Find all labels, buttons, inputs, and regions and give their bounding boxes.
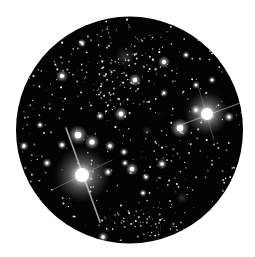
- star: [145, 176, 148, 179]
- faint-star: [101, 36, 102, 37]
- faint-star: [241, 112, 243, 114]
- faint-star: [158, 207, 159, 208]
- faint-star: [120, 105, 121, 106]
- faint-star: [107, 105, 109, 107]
- faint-star: [117, 213, 118, 214]
- faint-star: [63, 101, 64, 102]
- faint-star: [123, 63, 124, 64]
- faint-star: [32, 100, 33, 101]
- faint-star: [145, 67, 146, 68]
- faint-star: [163, 157, 165, 159]
- faint-star: [98, 94, 100, 96]
- star: [60, 143, 63, 146]
- faint-star: [146, 131, 148, 133]
- faint-star: [50, 83, 51, 84]
- faint-star: [72, 48, 73, 49]
- faint-star: [152, 48, 153, 49]
- faint-star: [106, 190, 107, 191]
- faint-star: [133, 223, 134, 224]
- faint-star: [135, 90, 136, 91]
- star: [45, 161, 48, 164]
- faint-star: [185, 179, 186, 180]
- faint-star: [149, 235, 151, 237]
- faint-star: [209, 59, 211, 61]
- star: [123, 151, 126, 154]
- faint-star: [186, 194, 187, 195]
- faint-star: [183, 91, 185, 93]
- faint-star: [236, 114, 237, 115]
- faint-star: [50, 131, 52, 133]
- faint-star: [134, 54, 136, 56]
- faint-star: [23, 111, 24, 112]
- faint-star: [166, 31, 167, 32]
- faint-star: [59, 118, 61, 120]
- faint-star: [141, 209, 142, 210]
- faint-star: [38, 180, 40, 182]
- faint-star: [145, 239, 146, 240]
- faint-star: [207, 157, 208, 158]
- faint-star: [172, 108, 174, 110]
- faint-star: [32, 75, 34, 77]
- faint-star: [198, 39, 200, 41]
- faint-star: [123, 218, 124, 219]
- faint-star: [188, 143, 189, 144]
- faint-star: [217, 143, 218, 144]
- faint-star: [161, 218, 163, 220]
- faint-star: [170, 160, 172, 162]
- faint-star: [112, 81, 113, 82]
- faint-star: [130, 223, 132, 225]
- faint-star: [178, 186, 180, 188]
- faint-star: [106, 218, 107, 219]
- faint-star: [158, 231, 159, 232]
- faint-star: [115, 107, 116, 108]
- faint-star: [107, 159, 108, 160]
- faint-star: [212, 201, 213, 202]
- faint-star: [33, 144, 35, 146]
- faint-star: [172, 80, 174, 82]
- faint-star: [142, 76, 143, 77]
- faint-star: [133, 103, 134, 104]
- star: [60, 74, 64, 78]
- faint-star: [112, 228, 114, 230]
- faint-star: [183, 38, 185, 40]
- faint-star: [169, 200, 171, 202]
- faint-star: [37, 69, 39, 71]
- faint-star: [152, 37, 154, 39]
- faint-star: [151, 39, 152, 40]
- faint-star: [43, 132, 45, 134]
- faint-star: [30, 181, 32, 183]
- faint-star: [116, 226, 117, 227]
- faint-star: [80, 91, 82, 93]
- faint-star: [223, 182, 225, 184]
- faint-star: [149, 192, 151, 194]
- faint-star: [124, 101, 125, 102]
- faint-star: [218, 182, 219, 183]
- faint-star: [160, 37, 161, 38]
- faint-star: [105, 110, 107, 112]
- faint-star: [90, 104, 92, 106]
- faint-star: [218, 157, 219, 158]
- faint-star: [193, 207, 194, 208]
- faint-star: [153, 84, 154, 85]
- faint-star: [86, 52, 88, 54]
- faint-star: [175, 212, 176, 213]
- faint-star: [106, 47, 108, 49]
- faint-star: [126, 19, 128, 21]
- faint-star: [217, 147, 219, 149]
- faint-star: [105, 112, 106, 113]
- faint-star: [148, 71, 149, 72]
- faint-star: [174, 177, 175, 178]
- faint-star: [113, 106, 114, 107]
- faint-star: [26, 124, 27, 125]
- faint-star: [225, 178, 227, 180]
- faint-star: [116, 29, 117, 30]
- star: [81, 42, 84, 45]
- faint-star: [155, 223, 157, 225]
- faint-star: [166, 39, 167, 40]
- faint-star: [27, 116, 29, 118]
- star: [22, 144, 25, 147]
- faint-star: [149, 35, 150, 36]
- faint-star: [72, 74, 74, 76]
- faint-star: [138, 216, 140, 218]
- faint-star: [158, 51, 160, 53]
